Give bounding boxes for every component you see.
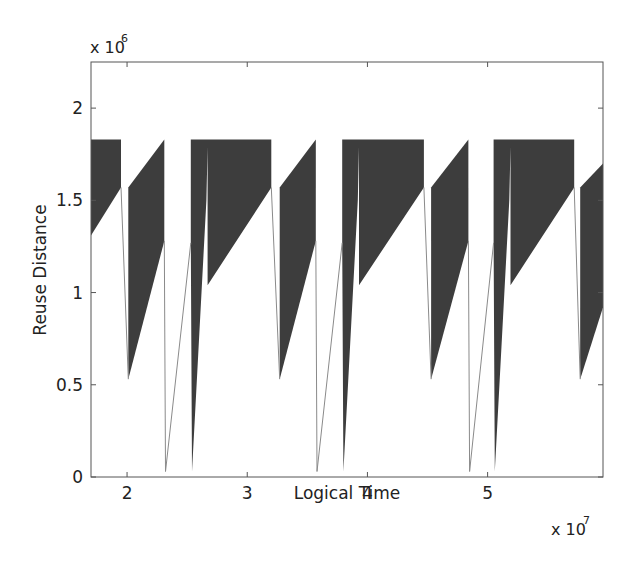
y-tick-label: 1 <box>72 283 83 303</box>
trace-line <box>574 187 580 379</box>
y-tick-label: 0 <box>72 467 83 487</box>
y-tick-label: 0.5 <box>56 375 83 395</box>
y-multiplier-base: x 10 <box>90 38 125 57</box>
filled-region <box>280 140 316 380</box>
filled-region <box>342 140 424 472</box>
filled-region <box>580 163 603 379</box>
y-multiplier: x 10 6 <box>90 32 128 57</box>
trace-line <box>164 241 191 472</box>
filled-region <box>191 140 271 472</box>
trace-line <box>424 187 431 379</box>
trace-line <box>468 241 493 472</box>
y-multiplier-exponent: 6 <box>121 32 128 45</box>
trace-line <box>121 187 128 379</box>
x-tick-label: 3 <box>242 483 253 503</box>
y-tick-label: 1.5 <box>56 190 83 210</box>
filled-region <box>431 140 468 380</box>
y-tick-label: 2 <box>72 98 83 118</box>
reuse-distance-chart: 2345 00.511.52 Logical Time Reuse Distan… <box>0 0 630 572</box>
filled-region <box>91 140 121 236</box>
x-axis-label: Logical Time <box>294 483 401 503</box>
x-multiplier-exponent: 7 <box>583 514 590 527</box>
x-multiplier: x 10 7 <box>551 514 590 539</box>
trace-line <box>316 241 342 472</box>
x-multiplier-base: x 10 <box>551 520 586 539</box>
filled-region <box>128 140 164 380</box>
trace-line <box>271 187 279 379</box>
y-axis-label: Reuse Distance <box>30 204 50 335</box>
x-tick-label: 5 <box>482 483 493 503</box>
x-tick-label: 2 <box>122 483 133 503</box>
plot-area <box>91 140 603 472</box>
filled-region <box>494 140 575 472</box>
